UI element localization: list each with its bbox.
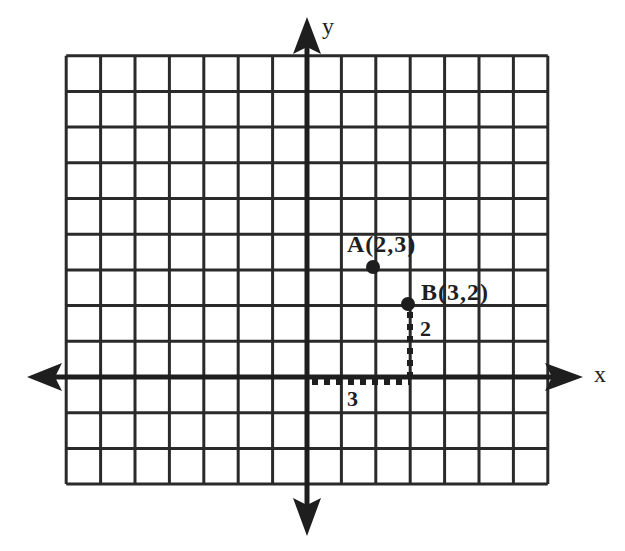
point-b-marker [401, 297, 415, 311]
vertical-length-label: 2 [420, 318, 431, 340]
coordinate-plane-diagram: y x A(2,3) B(3,2) 3 2 [0, 0, 625, 551]
point-a-label: A(2,3) [347, 232, 416, 256]
dotted-path-to-b [312, 312, 410, 382]
coordinate-plane-svg [0, 0, 625, 551]
x-axis-label: x [594, 362, 606, 386]
y-axis [293, 17, 321, 536]
horizontal-length-label: 3 [347, 388, 358, 410]
y-axis-label: y [322, 14, 334, 38]
point-b-label: B(3,2) [421, 280, 489, 304]
point-a-marker [366, 260, 380, 274]
